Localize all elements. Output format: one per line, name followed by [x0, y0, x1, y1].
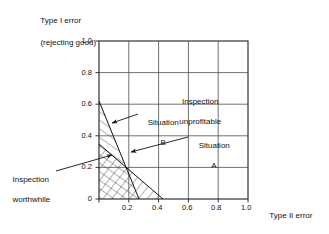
y-tick-label-0.8: 0.8 — [72, 69, 92, 77]
annotation-inspection-unprofitable: Inspection unprofitable — [165, 87, 231, 127]
y-tick-label-1.0: 1.0 — [72, 37, 92, 45]
annotation-worthwhile-line2: worthwhile — [12, 195, 50, 204]
y-tick-label-0: 0 — [72, 195, 92, 203]
x-tick-label-0.6: 0.6 — [182, 204, 192, 212]
y-tick-label-0.6: 0.6 — [72, 100, 92, 108]
y-tick-label-0.2: 0.2 — [72, 163, 92, 171]
leader-situation-b-arrow — [112, 114, 138, 123]
x-tick-label-0.8: 0.8 — [211, 204, 221, 212]
annotation-worthwhile-line1: Inspection — [12, 175, 48, 184]
x-axis-title-line1: Type II error — [269, 211, 312, 220]
annotation-situation-b-line2: B — [161, 138, 166, 147]
y-tick-label-0.4: 0.4 — [72, 132, 92, 140]
annotation-situation-a-line2: A — [211, 161, 216, 170]
x-tick-label-0.2: 0.2 — [122, 204, 132, 212]
annotation-unprofitable-line1: Inspection — [182, 97, 218, 106]
y-axis-title-line1: Type I error — [40, 16, 81, 25]
annotation-inspection-worthwhile: Inspection worthwhile — [8, 165, 50, 205]
x-tick-label-0.4: 0.4 — [152, 204, 162, 212]
annotation-situation-a: Situation A — [190, 131, 234, 171]
annotation-situation-a-line1: Situation — [199, 141, 230, 150]
x-axis-title: Type II error (accepting bad) — [265, 199, 325, 234]
x-tick-label-1.0: 1.0 — [241, 204, 251, 212]
annotation-unprofitable-line2: unprofitable — [179, 117, 221, 126]
x-axis-title-line2: (accepting bad) — [269, 233, 324, 234]
